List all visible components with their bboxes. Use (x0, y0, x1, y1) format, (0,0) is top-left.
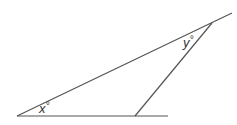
side-line (135, 23, 212, 116)
angle-x-label: x° (38, 100, 50, 116)
triangle-diagram: x° y° (0, 0, 237, 125)
